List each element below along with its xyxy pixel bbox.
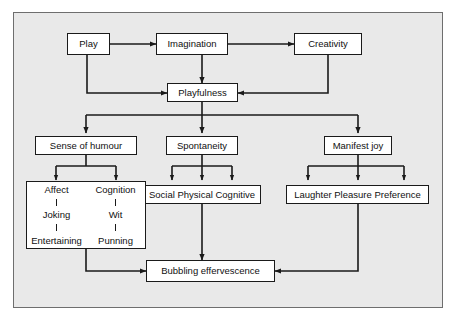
humour-cognition-level3: Punning — [98, 236, 133, 246]
humour-cognition-level1: Cognition — [95, 185, 135, 195]
node-spontaneity-label: Spontaneity — [177, 141, 227, 151]
humour-affect-level1: Affect — [44, 185, 68, 195]
humour-branch-box: Affect Joking Entertaining Cognition Wit… — [26, 181, 146, 249]
humour-affect-level3: Entertaining — [31, 236, 82, 246]
humour-affect-level2: Joking — [43, 210, 70, 220]
humour-affect-column: Affect Joking Entertaining — [27, 182, 86, 248]
node-manifest-joy-label: Manifest joy — [333, 141, 384, 151]
node-imagination-label: Imagination — [167, 39, 216, 49]
node-laughter-pleasure-preference[interactable]: Laughter Pleasure Preference — [286, 185, 429, 204]
node-imagination[interactable]: Imagination — [156, 33, 228, 55]
node-play[interactable]: Play — [67, 33, 110, 55]
humour-cognition-connector-2 — [115, 224, 116, 231]
node-bubbling-effervescence[interactable]: Bubbling effervescence — [146, 260, 275, 282]
node-creativity-label: Creativity — [308, 39, 348, 49]
node-sense-of-humour[interactable]: Sense of humour — [35, 136, 137, 155]
node-social-physical-cognitive[interactable]: Social Physical Cognitive — [143, 185, 261, 204]
humour-affect-connector-1 — [56, 199, 57, 206]
node-creativity[interactable]: Creativity — [294, 33, 362, 55]
humour-affect-connector-2 — [56, 224, 57, 231]
humour-cognition-level2: Wit — [109, 210, 123, 220]
humour-cognition-connector-1 — [115, 199, 116, 206]
humour-cognition-column: Cognition Wit Punning — [86, 182, 145, 248]
node-playfulness-label: Playfulness — [178, 88, 227, 98]
node-play-label: Play — [79, 39, 97, 49]
node-spontaneity[interactable]: Spontaneity — [166, 136, 238, 155]
diagram-canvas: Play Imagination Creativity Playfulness … — [0, 0, 460, 323]
node-bubbling-effervescence-label: Bubbling effervescence — [161, 266, 260, 276]
node-sense-of-humour-label: Sense of humour — [50, 141, 122, 151]
node-manifest-joy[interactable]: Manifest joy — [324, 136, 392, 155]
node-laughter-pleasure-preference-label: Laughter Pleasure Preference — [294, 190, 421, 200]
node-playfulness[interactable]: Playfulness — [167, 83, 238, 102]
node-social-physical-cognitive-label: Social Physical Cognitive — [149, 190, 255, 200]
